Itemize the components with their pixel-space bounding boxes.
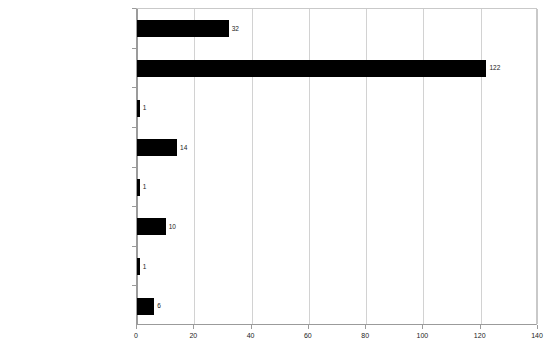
bar [137,298,154,315]
bar-value-label: 6 [154,303,161,310]
x-tick-label: 100 [417,332,429,339]
bar [137,20,229,37]
bar [137,218,166,235]
x-tick-label: 80 [361,332,369,339]
x-tick-label: 0 [134,332,138,339]
x-tick-80 [365,325,366,329]
gridline-40 [252,9,253,324]
bar-chart: 3212211411016 DelftRedwareEarthenware, b… [0,0,549,358]
bar-value-label: 1 [140,263,147,270]
gridline-80 [366,9,367,324]
gridline-20 [194,9,195,324]
y-tick [132,285,136,286]
x-tick-40 [251,325,252,329]
x-tick-label: 20 [189,332,197,339]
y-tick [132,206,136,207]
gridline-120 [481,9,482,324]
y-tick [132,8,136,9]
bar-value-label: 122 [486,65,500,72]
x-tick-120 [480,325,481,329]
x-tick-0 [136,325,137,329]
bar-value-label: 1 [140,105,147,112]
x-tick-60 [308,325,309,329]
bar-value-label: 32 [229,26,239,33]
gridline-0 [137,9,138,324]
bar-value-label: 10 [166,224,176,231]
y-tick [132,127,136,128]
y-tick [132,246,136,247]
bar-row: 1 [137,179,536,196]
bar-row: 6 [137,298,536,315]
bar-row: 122 [137,60,536,77]
bar [137,60,486,77]
gridline-140 [537,9,538,324]
x-tick-label: 120 [474,332,486,339]
bar-row: 1 [137,258,536,275]
bar-value-label: 14 [177,144,187,151]
bar-value-label: 1 [140,184,147,191]
bar-row: 14 [137,139,536,156]
y-tick [132,87,136,88]
bar-row: 10 [137,218,536,235]
x-tick-100 [422,325,423,329]
gridline-60 [309,9,310,324]
x-tick-label: 140 [531,332,543,339]
chart-title [46,0,506,3]
x-tick-20 [193,325,194,329]
bar-row: 1 [137,100,536,117]
y-tick [132,167,136,168]
bar-row: 32 [137,20,536,37]
y-tick [132,48,136,49]
x-tick-label: 60 [304,332,312,339]
x-tick-140 [537,325,538,329]
plot-area: 3212211411016 [136,8,537,325]
gridline-100 [423,9,424,324]
x-tick-label: 40 [247,332,255,339]
bar [137,139,177,156]
